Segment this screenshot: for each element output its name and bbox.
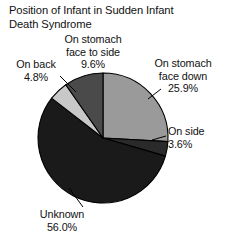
annotation-on-side: On side 3.6%	[168, 125, 226, 150]
annotation-on-back: On back 4.8%	[6, 58, 66, 83]
pie-chart-figure: Position of Infant in Sudden Infant Deat…	[0, 0, 231, 243]
annotation-unknown: Unknown 56.0%	[25, 208, 99, 233]
annotation-on-stomach-face-down: On stomach face down 25.9%	[142, 57, 224, 95]
